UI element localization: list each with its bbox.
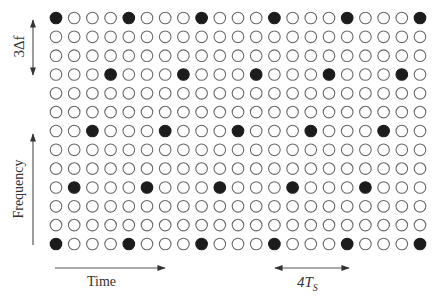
data-symbol	[87, 238, 99, 250]
data-symbol	[87, 88, 99, 100]
pilot-symbol	[232, 125, 244, 137]
pilot-symbol	[269, 12, 281, 24]
data-symbol	[396, 125, 408, 137]
data-symbol	[378, 88, 390, 100]
data-symbol	[214, 106, 226, 118]
data-symbol	[123, 144, 135, 156]
data-symbol	[105, 31, 117, 43]
data-symbol	[68, 144, 80, 156]
data-symbol	[159, 144, 171, 156]
data-symbol	[269, 125, 281, 137]
data-symbol	[68, 50, 80, 62]
data-symbol	[178, 238, 190, 250]
data-symbol	[305, 12, 317, 24]
data-symbol	[396, 182, 408, 194]
data-symbol	[68, 106, 80, 118]
data-symbol	[123, 182, 135, 194]
data-symbol	[287, 50, 299, 62]
pilot-symbol	[305, 125, 317, 137]
data-symbol	[232, 106, 244, 118]
data-symbol	[323, 219, 335, 231]
data-symbol	[87, 219, 99, 231]
data-symbol	[360, 201, 372, 213]
data-symbol	[323, 88, 335, 100]
data-symbol	[87, 163, 99, 175]
data-symbol	[360, 125, 372, 137]
data-symbol	[378, 201, 390, 213]
data-symbol	[196, 50, 208, 62]
data-symbol	[50, 50, 62, 62]
data-symbol	[360, 144, 372, 156]
data-symbol	[323, 106, 335, 118]
pilot-symbol	[341, 238, 353, 250]
data-symbol	[305, 238, 317, 250]
data-symbol	[141, 219, 153, 231]
data-symbol	[396, 50, 408, 62]
data-symbol	[123, 125, 135, 137]
data-symbol	[250, 125, 262, 137]
data-symbol	[305, 69, 317, 81]
data-symbol	[178, 182, 190, 194]
data-symbol	[250, 144, 262, 156]
data-symbol	[378, 12, 390, 24]
data-symbol	[360, 219, 372, 231]
data-symbol	[50, 219, 62, 231]
data-symbol	[123, 106, 135, 118]
data-symbol	[178, 201, 190, 213]
data-symbol	[305, 50, 317, 62]
data-symbol	[250, 106, 262, 118]
data-symbol	[232, 238, 244, 250]
pilot-symbol	[123, 12, 135, 24]
data-symbol	[214, 88, 226, 100]
data-symbol	[250, 88, 262, 100]
data-symbol	[214, 219, 226, 231]
data-symbol	[87, 144, 99, 156]
data-symbol	[341, 219, 353, 231]
pilot-symbol	[196, 12, 208, 24]
data-symbol	[323, 31, 335, 43]
data-symbol	[105, 219, 117, 231]
data-symbol	[305, 144, 317, 156]
data-symbol	[341, 31, 353, 43]
data-symbol	[68, 125, 80, 137]
data-symbol	[323, 182, 335, 194]
data-symbol	[323, 201, 335, 213]
data-symbol	[269, 69, 281, 81]
pilot-symbol	[360, 182, 372, 194]
data-symbol	[105, 182, 117, 194]
data-symbol	[141, 144, 153, 156]
pilot-symbol	[87, 125, 99, 137]
data-symbol	[232, 163, 244, 175]
data-symbol	[396, 144, 408, 156]
data-symbol	[305, 182, 317, 194]
data-symbol	[269, 144, 281, 156]
data-symbol	[87, 50, 99, 62]
data-symbol	[123, 50, 135, 62]
data-symbol	[159, 163, 171, 175]
pilot-symbol	[323, 69, 335, 81]
data-symbol	[360, 88, 372, 100]
data-symbol	[396, 31, 408, 43]
data-symbol	[178, 163, 190, 175]
data-symbol	[360, 106, 372, 118]
data-symbol	[214, 144, 226, 156]
data-symbol	[159, 106, 171, 118]
data-symbol	[68, 12, 80, 24]
data-symbol	[305, 88, 317, 100]
data-symbol	[323, 12, 335, 24]
data-symbol	[196, 182, 208, 194]
data-symbol	[250, 163, 262, 175]
data-symbol	[305, 31, 317, 43]
data-symbol	[214, 125, 226, 137]
data-symbol	[414, 31, 426, 43]
data-symbol	[396, 106, 408, 118]
time-axis-label: Time	[87, 274, 116, 290]
data-symbol	[196, 144, 208, 156]
data-symbol	[87, 182, 99, 194]
data-symbol	[196, 88, 208, 100]
data-symbol	[323, 125, 335, 137]
data-symbol	[87, 201, 99, 213]
data-symbol	[287, 106, 299, 118]
pilot-symbol	[414, 12, 426, 24]
data-symbol	[269, 31, 281, 43]
